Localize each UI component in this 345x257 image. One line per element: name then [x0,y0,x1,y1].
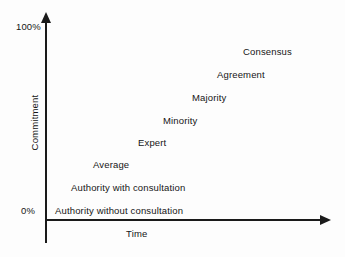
x-axis-title: Time [126,228,148,239]
y-axis-title: Commitment [29,83,40,163]
data-point-label-average: Average [93,159,129,170]
y-axis-arrowhead-icon [41,12,51,23]
data-point-label-minority: Minority [163,115,197,126]
y-axis-line [45,20,47,243]
y-axis-tick-label-100: 100% [16,21,41,32]
data-point-label-agreement: Agreement [217,69,265,80]
data-point-label-consensus: Consensus [243,46,292,57]
decision-methods-chart: 100% 0% Commitment Time Authority withou… [0,0,345,257]
data-point-label-expert: Expert [138,137,166,148]
data-point-label-authority-without-consultation: Authority without consultation [55,205,183,216]
data-point-label-majority: Majority [192,92,226,103]
data-point-label-authority-with-consultation: Authority with consultation [71,182,185,193]
x-axis-arrowhead-icon [320,215,331,225]
x-axis-line [46,219,323,221]
y-axis-tick-label-0: 0% [21,205,35,216]
